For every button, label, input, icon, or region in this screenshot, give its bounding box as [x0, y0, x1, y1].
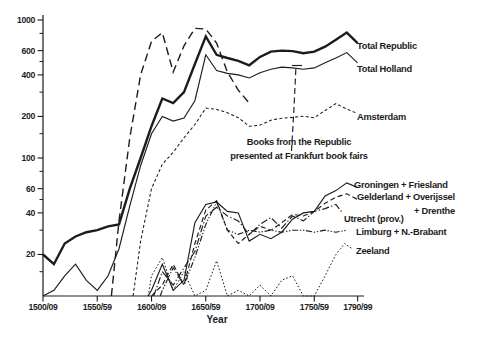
series-label-zeeland: Zeeland: [356, 246, 390, 256]
line-chart-canvas: 10006004002001006040201500/091550/591600…: [0, 0, 480, 343]
series-line-amsterdam: [133, 104, 358, 296]
frankfurt-annotation-group: Books from the Republicpresented at Fran…: [230, 66, 368, 162]
x-tick-label: 1750/59: [300, 302, 329, 312]
book-production-line-chart-figure: 10006004002001006040201500/091550/591600…: [0, 0, 480, 343]
x-tick-label: 1600/09: [137, 302, 166, 312]
series-line-total-republic: [43, 33, 358, 265]
series-label-total-holland: Total Holland: [357, 64, 413, 74]
series-label-utrecht: Utrecht (prov.): [344, 214, 404, 224]
frankfurt-annotation-line2: presented at Frankfurt book fairs: [230, 151, 368, 161]
series-label-gelderland-overijssel-drenthe-line2: + Drenthe: [414, 206, 455, 216]
series-label-total-republic: Total Republic: [357, 41, 417, 51]
y-tick-label: 60: [26, 184, 35, 194]
frankfurt-annotation-line1: Books from the Republic: [247, 137, 351, 147]
series-lines-group: [43, 28, 358, 296]
y-tick-label: 400: [22, 70, 36, 80]
series-line-total-holland: [43, 53, 358, 296]
series-label-groningen-friesland: Groningen + Friesland: [354, 180, 448, 190]
y-tick-label: 20: [26, 249, 35, 259]
x-tick-label: 1700/09: [246, 302, 275, 312]
y-tick-label: 600: [22, 46, 36, 56]
y-tick-label: 100: [22, 153, 36, 163]
y-tick-label: 200: [22, 111, 36, 121]
x-tick-label: 1790/99: [343, 302, 372, 312]
series-line-zeeland: [148, 244, 352, 297]
series-label-gelderland-overijssel-drenthe: Gelderland + Overijssel: [357, 192, 455, 202]
x-tick-label: 1650/59: [191, 302, 220, 312]
series-label-limburg-brabant: Limburg + N.-Brabant: [356, 227, 446, 237]
y-tick-label: 1000: [17, 15, 35, 25]
series-label-amsterdam: Amsterdam: [357, 112, 406, 122]
series-labels-group: ZeelandLimburg + N.-BrabantUtrecht (prov…: [344, 41, 455, 256]
x-tick-label: 1500/09: [29, 302, 58, 312]
x-axis-title: Year: [206, 314, 227, 325]
series-line-frankfurt: [111, 28, 249, 296]
x-tick-label: 1550/59: [83, 302, 112, 312]
y-tick-label: 40: [26, 208, 35, 218]
series-line-gelderland-overijssel-drenthe: [152, 194, 358, 296]
